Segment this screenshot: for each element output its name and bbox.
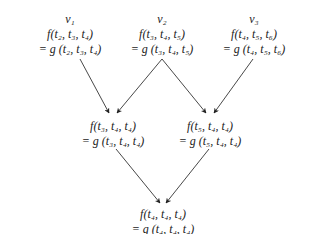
node-bottom: f(t₄, t₄, t₄) = g (t₄, t₄, t₄) [132,207,195,234]
node-middle-left: f(t₃, t₄, t₄) = g (t₃, t₄, t₄) [82,119,145,149]
edge-middle-right-to-bottom [166,149,209,203]
node-v2-label: v₂ [131,12,194,27]
node-bottom-f: f(t₄, t₄, t₄) [132,207,195,222]
node-v2-f: f(t₃, t₄, t₅) [131,27,194,42]
node-bottom-g: = g (t₄, t₄, t₄) [132,222,195,234]
edge-middle-left-to-bottom [116,149,160,203]
node-v1-f: f(t₂, t₃, t₄) [39,27,102,42]
edge-v1-to-middle-left [80,59,109,113]
node-v1-label: v₁ [39,12,102,27]
node-v2-g: = g (t₃, t₄, t₅) [131,42,194,57]
node-v1-g: = g (t₂, t₃, t₄) [39,42,102,57]
node-middle-left-g: = g (t₃, t₄, t₄) [82,134,145,149]
node-v3-g: = g (t₄, t₅, t₆) [223,42,286,57]
edge-v2-to-middle-right [162,59,206,113]
node-v3-label: v₃ [223,12,286,27]
node-middle-right-f: f(t₅, t₄, t₄) [179,119,242,134]
node-middle-right-g: = g (t₅, t₄, t₄) [179,134,242,149]
node-v3: v₃ f(t₄, t₅, t₆) = g (t₄, t₅, t₆) [223,12,286,57]
edge-v2-to-middle-left [117,59,162,113]
node-middle-left-f: f(t₃, t₄, t₄) [82,119,145,134]
node-v2: v₂ f(t₃, t₄, t₅) = g (t₃, t₄, t₅) [131,12,194,57]
edge-v3-to-middle-right [214,59,253,113]
node-v3-f: f(t₄, t₅, t₆) [223,27,286,42]
node-middle-right: f(t₅, t₄, t₄) = g (t₅, t₄, t₄) [179,119,242,149]
node-v1: v₁ f(t₂, t₃, t₄) = g (t₂, t₃, t₄) [39,12,102,57]
